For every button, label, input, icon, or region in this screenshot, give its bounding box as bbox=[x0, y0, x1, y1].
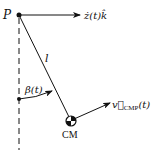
pivot-label: P bbox=[2, 8, 12, 22]
center-of-mass-label: CM bbox=[62, 129, 78, 140]
pivot-velocity-unit: k̂ bbox=[101, 9, 107, 21]
angle-label: β(t) bbox=[24, 84, 43, 95]
rod-length-label: l bbox=[45, 52, 49, 65]
pendulum-diagram: P ż(t)k̂ l β(t) CM v⃗CMP(t) bbox=[0, 0, 162, 150]
pivot-point bbox=[17, 13, 22, 18]
cm-velocity-arg: (t) bbox=[138, 99, 150, 110]
pendulum-rod bbox=[19, 15, 70, 119]
pivot-velocity-label: ż(t)k̂ bbox=[83, 9, 107, 21]
center-of-mass-icon bbox=[66, 116, 76, 126]
cm-velocity-arrow bbox=[74, 103, 110, 119]
cm-velocity-subscript: CMP bbox=[124, 104, 139, 112]
cm-velocity-main: v⃗ bbox=[112, 99, 124, 110]
pivot-velocity-main: ż(t) bbox=[83, 10, 101, 21]
cm-velocity-label: v⃗CMP(t) bbox=[112, 99, 150, 112]
